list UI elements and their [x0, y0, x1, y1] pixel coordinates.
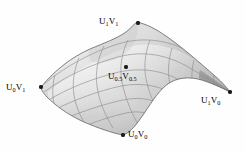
label-u-letter: U: [128, 129, 135, 139]
label-v-subscript: 1: [115, 20, 118, 27]
label-u-subscript: 0: [13, 86, 16, 93]
point-label-u0.5v0.5: U0.5V0.5: [108, 72, 137, 81]
label-u-subscript: 1: [106, 20, 109, 27]
label-v-subscript: 0.5: [129, 75, 137, 82]
label-v-subscript: 0: [144, 133, 147, 140]
label-u-letter: U: [6, 82, 13, 92]
label-u-letter: U: [99, 16, 106, 26]
label-v-subscript: 1: [22, 86, 25, 93]
label-u-subscript: 1: [208, 99, 211, 106]
point-label-u0v1: U0V1: [6, 83, 25, 92]
label-u-subscript: 0.5: [115, 75, 123, 82]
point-label-u1v1: U1V1: [99, 17, 118, 26]
label-u-subscript: 0: [135, 133, 138, 140]
surface-patch-figure: U1V1 U0V1 U0.5V0.5 U1V0 U0V0: [0, 0, 245, 152]
label-u-letter: U: [201, 95, 208, 105]
label-v-subscript: 0: [217, 99, 220, 106]
point-label-u0v0: U0V0: [128, 130, 147, 139]
marker-dot-u1v1: [136, 21, 140, 25]
label-v-letter: V: [122, 71, 129, 81]
point-label-u1v0: U1V0: [201, 96, 220, 105]
label-u-letter: U: [108, 71, 115, 81]
